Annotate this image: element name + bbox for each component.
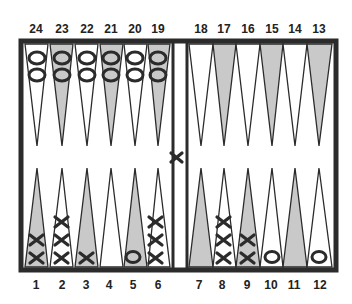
point-label-4: 4 [97,277,121,293]
point-label-6: 6 [146,277,170,293]
point-label-12: 12 [308,277,332,293]
point-label-7: 7 [187,277,211,293]
point-label-8: 8 [210,277,234,293]
point-label-2: 2 [50,277,74,293]
point-label-3: 3 [74,277,98,293]
point-label-1: 1 [24,277,48,293]
point-label-5: 5 [121,277,145,293]
bottom-point-labels: 1 2 3 4 5 6 7 8 9 10 11 12 [0,277,352,293]
backgammon-board [0,0,352,304]
point-label-10: 10 [259,277,283,293]
point-label-9: 9 [235,277,259,293]
point-label-11: 11 [282,277,306,293]
